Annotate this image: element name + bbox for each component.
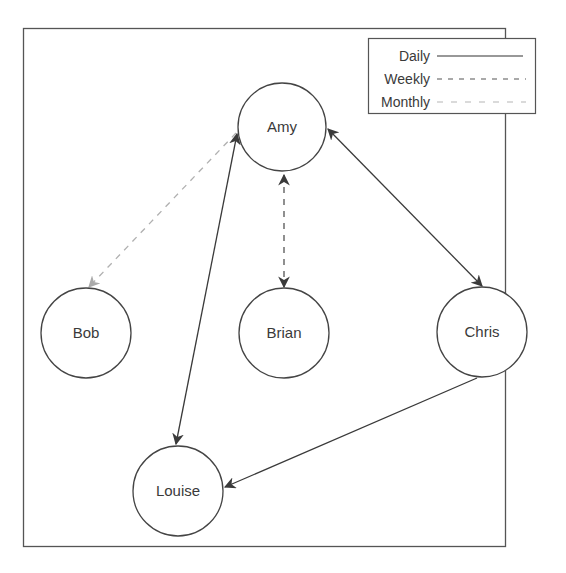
node-label: Brian — [266, 324, 301, 341]
edge-chris-louise-daily — [225, 378, 477, 487]
node-amy: Amy — [238, 83, 326, 171]
node-chris: Chris — [437, 287, 527, 377]
node-label: Chris — [464, 323, 499, 340]
legend-label-weekly: Weekly — [384, 71, 430, 87]
edge-amy-bob-monthly — [89, 133, 236, 287]
node-label: Amy — [267, 118, 298, 135]
legend: Daily Weekly Monthly — [369, 39, 536, 114]
node-louise: Louise — [133, 446, 223, 536]
node-bob: Bob — [41, 288, 131, 378]
node-label: Bob — [73, 324, 100, 341]
node-label: Louise — [156, 482, 200, 499]
legend-label-monthly: Monthly — [381, 94, 430, 110]
node-brian: Brian — [239, 288, 329, 378]
edge-amy-louise-daily — [176, 134, 237, 444]
edge-amy-chris-daily — [328, 129, 482, 286]
legend-label-daily: Daily — [399, 48, 430, 64]
relationship-diagram: Daily Weekly Monthly Amy Bob Brian Chris — [0, 0, 566, 573]
